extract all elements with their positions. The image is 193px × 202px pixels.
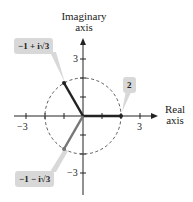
real-axis-label: Real axis [160,104,190,126]
vector-neg1-minus-i-root3 [64,116,83,149]
callout-2: 2 [123,77,136,93]
callout-neg1-minus-i-root3: −1 − i√3 [15,171,54,187]
imaginary-axis-label: Imaginary axis [56,11,112,33]
callout-pointer-top [50,52,65,83]
tick-label-x-3: 3 [137,121,142,132]
tick-label-y-neg3: −3 [67,167,78,178]
point-neg1-plus-i-root3 [62,81,66,85]
imaginary-axis-arrow-icon [80,38,86,45]
real-axis-label-line2: axis [160,115,190,126]
tick-label-y-3: 3 [73,53,78,64]
callout-neg1-plus-i-root3: −1 + i√3 [14,38,53,54]
point-2 [119,114,123,118]
tick-label-x-neg3: −3 [17,121,28,132]
point-neg1-minus-i-root3 [62,147,66,151]
complex-plane-diagram: Imaginary axis Real axis −3 3 3 −3 −1 + … [0,0,193,202]
real-axis-arrow-icon [151,113,158,119]
imaginary-axis-label-line2: axis [56,22,112,33]
vector-neg1-plus-i-root3 [64,83,83,116]
callout-pointer-bottom [50,149,68,172]
callout-pointer-right [122,90,132,112]
